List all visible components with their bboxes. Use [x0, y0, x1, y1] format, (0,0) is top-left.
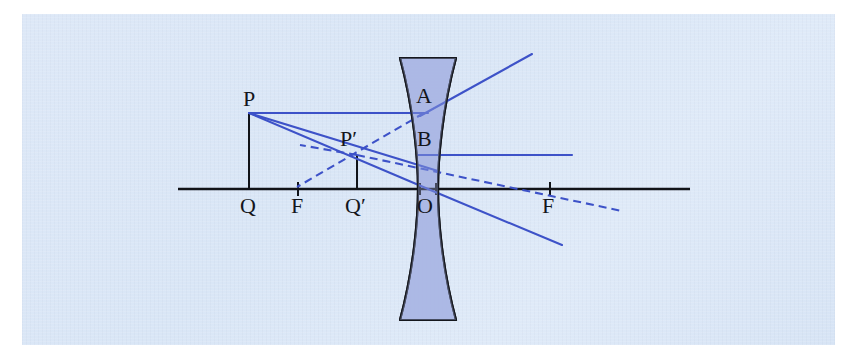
label-point-a: A	[416, 85, 432, 107]
label-point-q-prime: Q′	[345, 195, 366, 217]
label-point-q: Q	[240, 195, 256, 217]
label-lens-center-o: O	[417, 195, 433, 217]
label-point-b: B	[417, 128, 432, 150]
virtual-ray-back-to-focus	[297, 113, 424, 187]
label-focal-point-right: F	[542, 195, 554, 217]
label-point-p: P	[243, 88, 255, 110]
virtual-extension-to-right-focus	[357, 155, 622, 211]
optics-diagram-stage: P P′ A B Q F Q′ O F	[0, 0, 858, 359]
label-focal-point-left: F	[291, 195, 303, 217]
ray-diagram-svg	[0, 0, 858, 359]
label-point-p-prime: P′	[340, 128, 357, 150]
